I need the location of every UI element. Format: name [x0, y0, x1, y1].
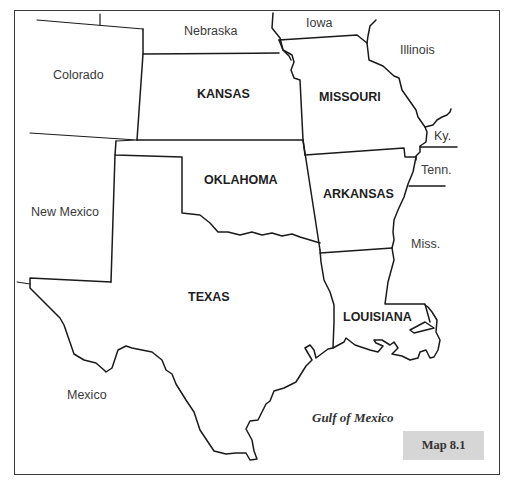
label-tennessee: Tenn.	[421, 164, 452, 177]
label-arkansas: ARKANSAS	[323, 188, 394, 201]
label-texas: TEXAS	[188, 291, 230, 304]
label-kentucky: Ky.	[434, 130, 451, 143]
map-caption: Map 8.1	[422, 438, 466, 453]
map-caption-box: Map 8.1	[403, 431, 484, 460]
label-gulf-of-mexico: Gulf of Mexico	[312, 411, 394, 424]
label-kansas: KANSAS	[197, 88, 250, 101]
label-nebraska: Nebraska	[184, 25, 238, 38]
label-mississippi: Miss.	[411, 238, 440, 251]
label-mexico: Mexico	[67, 389, 107, 402]
label-colorado: Colorado	[53, 69, 104, 82]
label-louisiana: LOUISIANA	[343, 311, 412, 324]
label-oklahoma: OKLAHOMA	[204, 174, 278, 187]
label-missouri: MISSOURI	[319, 91, 381, 104]
label-new-mexico: New Mexico	[31, 206, 99, 219]
label-illinois: Illinois	[400, 44, 435, 57]
label-iowa: Iowa	[306, 17, 332, 30]
